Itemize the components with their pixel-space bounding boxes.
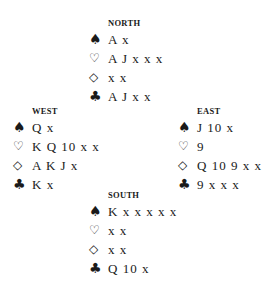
heart-icon: ♡ [13,137,32,156]
heart-icon: ♡ [89,221,108,240]
club-icon: ♣ [13,175,32,194]
north-hand: NORTH ♠ A x ♡ A J x x x ◇ x x ♣ A J x x [89,16,163,106]
east-spades-row: ♠ J 10 x [178,118,262,137]
spade-icon: ♠ [89,202,108,221]
east-hearts-row: ♡ 9 [178,137,262,156]
east-clubs-row: ♣ 9 x x x [178,175,262,194]
west-diamonds: A K J x [32,156,78,175]
south-spades-row: ♠ K x x x x x [89,202,177,221]
west-diamonds-row: ◇ A K J x [13,156,100,175]
diamond-icon: ◇ [89,240,108,259]
south-diamonds-row: ◇ x x [89,240,177,259]
north-hearts: A J x x x [108,49,163,68]
east-title: EAST [197,104,262,118]
west-spades-row: ♠ Q x [13,118,100,137]
north-title: NORTH [108,16,163,30]
south-hand: SOUTH ♠ K x x x x x ♡ x x ◇ x x ♣ Q 10 x [89,188,177,278]
north-spades: A x [108,30,129,49]
west-spades: Q x [32,118,54,137]
diamond-icon: ◇ [13,156,32,175]
east-hand: EAST ♠ J 10 x ♡ 9 ◇ Q 10 9 x x ♣ 9 x x x [178,104,262,194]
diamond-icon: ◇ [178,156,197,175]
spade-icon: ♠ [89,30,108,49]
south-diamonds: x x [108,240,127,259]
north-clubs-row: ♣ A J x x [89,87,163,106]
east-diamonds: Q 10 9 x x [197,156,262,175]
north-diamonds-row: ◇ x x [89,68,163,87]
west-clubs-row: ♣ K x [13,175,100,194]
west-hand: WEST ♠ Q x ♡ K Q 10 x x ◇ A K J x ♣ K x [13,104,100,194]
south-hearts-row: ♡ x x [89,221,177,240]
east-spades: J 10 x [197,118,234,137]
east-hearts: 9 [197,137,205,156]
east-diamonds-row: ◇ Q 10 9 x x [178,156,262,175]
north-hearts-row: ♡ A J x x x [89,49,163,68]
north-diamonds: x x [108,68,127,87]
north-clubs: A J x x [108,87,151,106]
south-spades: K x x x x x [108,202,177,221]
spade-icon: ♠ [178,118,197,137]
west-hearts: K Q 10 x x [32,137,100,156]
club-icon: ♣ [178,175,197,194]
south-clubs-row: ♣ Q 10 x [89,259,177,278]
spade-icon: ♠ [13,118,32,137]
heart-icon: ♡ [178,137,197,156]
diamond-icon: ◇ [89,68,108,87]
south-hearts: x x [108,221,127,240]
south-clubs: Q 10 x [108,259,149,278]
club-icon: ♣ [89,259,108,278]
west-hearts-row: ♡ K Q 10 x x [13,137,100,156]
east-clubs: 9 x x x [197,175,240,194]
west-title: WEST [32,104,100,118]
heart-icon: ♡ [89,49,108,68]
west-clubs: K x [32,175,54,194]
south-title: SOUTH [108,188,177,202]
north-spades-row: ♠ A x [89,30,163,49]
